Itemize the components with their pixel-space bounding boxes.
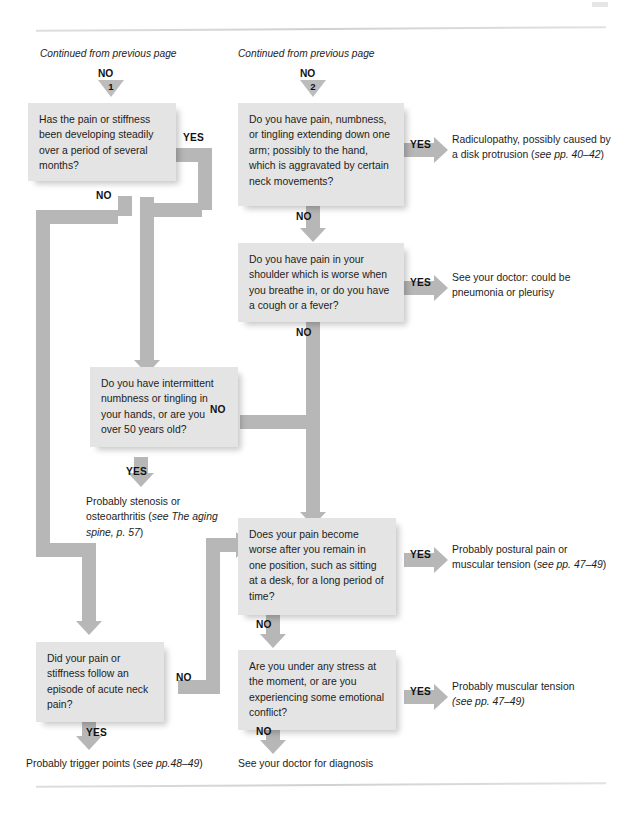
edge-q1-no-corner: [118, 196, 132, 216]
edge-q6-yes-arrowhead: [434, 684, 448, 710]
bottom-rule: [36, 782, 606, 787]
answer-a6: Probably trigger points (see pp.48–49): [26, 756, 236, 771]
label-q1-yes: YES: [183, 132, 204, 143]
entry1-label: NO: [98, 68, 113, 79]
answer-a7: See your doctor for diagnosis: [238, 756, 438, 771]
entry2-number: 2: [310, 81, 315, 92]
answer-a1-line1: Radiculopathy, possibly caused by: [452, 134, 611, 145]
question-box-q6[interactable]: Are you under any stress at the moment, …: [238, 650, 396, 730]
question-box-q2[interactable]: Do you have pain, numbness, or tingling …: [238, 103, 404, 206]
answer-a1-line2-tail: ): [600, 149, 603, 160]
answer-a6-line1-plain: Probably trigger points (: [26, 758, 136, 769]
edge-q2-yes-arrowhead: [434, 137, 448, 163]
edge-q1-yes-h2: [152, 203, 202, 217]
label-q5-yes: YES: [410, 549, 431, 560]
label-q5-no: NO: [256, 619, 272, 630]
answer-a3-line1: Probably stenosis or: [86, 496, 180, 507]
label-q6-yes: YES: [410, 686, 431, 697]
edge-q3-yes-arrowhead: [434, 275, 448, 301]
question-box-q1[interactable]: Has the pain or stiffness been developin…: [28, 103, 176, 181]
question-box-q3[interactable]: Do you have pain in your shoulder which …: [238, 243, 404, 322]
answer-a3-line3-italic: spine, p. 57: [86, 527, 140, 538]
answer-a4-line1: Probably postural pain or: [452, 544, 568, 555]
answer-a5-line1: Probably muscular tension: [452, 681, 574, 692]
question-box-q7[interactable]: Did your pain or stiffness follow an epi…: [36, 642, 164, 722]
answer-a3-line2-plain: osteoarthritis (: [86, 511, 152, 522]
flowchart-page: Continued from previous page Continued f…: [0, 0, 630, 813]
continued-header-col1: Continued from previous page: [40, 48, 176, 59]
edge-q7-yes-arrowhead: [76, 736, 102, 750]
edge-q5-no-arrowhead: [260, 634, 286, 648]
corner-mark: [592, 2, 608, 7]
label-q4-yes: YES: [126, 466, 147, 477]
answer-a2-line1: See your doctor: could be: [452, 272, 570, 283]
answer-a1-line2-plain: a disk protrusion (: [452, 149, 535, 160]
answer-a5: Probably muscular tension (see pp. 47–49…: [452, 679, 628, 710]
trunkB-v: [36, 210, 50, 557]
edge-q1-yes-arrowhead: [140, 197, 154, 223]
trunkB-arrowhead: [76, 621, 102, 635]
answer-a3: Probably stenosis or osteoarthritis (see…: [86, 494, 266, 540]
answer-a6-line1-italic: see pp.48–49: [136, 758, 199, 769]
answer-a6-line1-tail: ): [199, 758, 202, 769]
trunkA-v: [140, 203, 154, 363]
answer-a4-line2-italic: see pp. 47–49: [537, 559, 603, 570]
edge-q1-yes-v: [198, 148, 212, 210]
label-q7-no: NO: [176, 672, 192, 683]
label-q3-no: NO: [296, 327, 312, 338]
label-q6-no: NO: [256, 726, 272, 737]
edge-q5-yes-arrowhead: [434, 547, 448, 573]
answer-a2-line2-plain: pneumonia or pleurisy: [452, 287, 554, 298]
label-q2-no: NO: [296, 211, 312, 222]
trunkB-v2: [82, 543, 96, 624]
entry2-label: NO: [300, 68, 315, 79]
edge-q6-no-arrowhead: [260, 740, 286, 754]
answer-a1: Radiculopathy, possibly caused by a disk…: [452, 132, 622, 163]
label-q1-no: NO: [96, 190, 112, 201]
continued-header-col2: Continued from previous page: [238, 48, 374, 59]
top-rule: [36, 26, 606, 31]
entry1-number: 1: [108, 81, 113, 92]
answer-a3-line3-tail: ): [140, 527, 143, 538]
answer-a2: See your doctor: could be pneumonia or p…: [452, 270, 622, 301]
answer-a5-line2-italic: (see pp. 47–49): [452, 696, 525, 707]
label-q2-yes: YES: [410, 139, 431, 150]
edge-q2-no-arrowhead: [300, 228, 326, 242]
entry1-arrow-icon: 1: [98, 80, 124, 97]
label-q7-yes: YES: [86, 727, 107, 738]
answer-a1-line2-italic: see pp. 40–42: [535, 149, 601, 160]
edge-q7-no-v: [206, 538, 220, 694]
label-q4-no: NO: [210, 404, 226, 415]
answer-a3-line2-italic: see The aging: [152, 511, 218, 522]
answer-a4: Probably postural pain or muscular tensi…: [452, 542, 628, 573]
label-q3-yes: YES: [410, 277, 431, 288]
answer-a4-line2-plain: muscular tension (: [452, 559, 537, 570]
edge-q4-no-h: [240, 415, 320, 429]
entry2-arrow-icon: 2: [300, 80, 326, 97]
answer-a4-line2-tail: ): [603, 559, 606, 570]
